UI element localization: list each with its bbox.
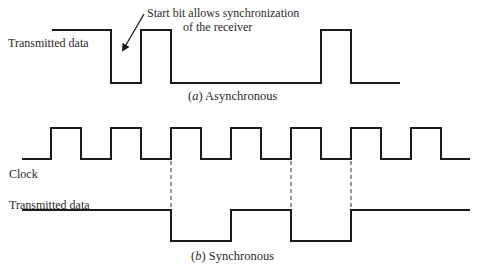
sync-dashed-guides bbox=[171, 161, 351, 210]
sync-data-waveform bbox=[22, 210, 470, 241]
async-data-waveform bbox=[52, 30, 400, 83]
clock-waveform bbox=[22, 128, 470, 159]
waveforms bbox=[0, 0, 483, 274]
